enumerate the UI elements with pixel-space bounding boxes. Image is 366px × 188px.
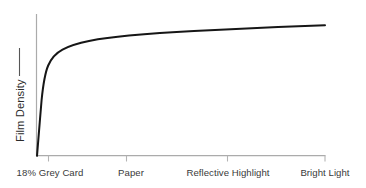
x-tick-label-reflective-highlight: Reflective Highlight: [186, 167, 269, 178]
y-axis-title: Film Density: [14, 79, 26, 142]
film-density-chart: Film Density 18% Grey Card Paper Reflect…: [0, 0, 366, 188]
chart-canvas: Film Density 18% Grey Card Paper Reflect…: [0, 0, 366, 188]
x-tick-label-paper: Paper: [118, 167, 145, 178]
x-tick-label-bright-light: Bright Light: [300, 167, 349, 178]
film-density-curve: [37, 25, 325, 156]
x-tick-label-grey-card: 18% Grey Card: [17, 167, 84, 178]
